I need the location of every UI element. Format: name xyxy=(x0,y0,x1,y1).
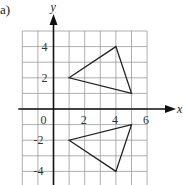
y-tick-label: 2 xyxy=(42,71,48,85)
y-axis-label: y xyxy=(50,0,57,14)
y-tick-label: -4 xyxy=(34,164,44,178)
y-tick-label: -2 xyxy=(34,133,44,147)
x-tick-label: 2 xyxy=(81,113,87,127)
grid-lines xyxy=(22,31,147,185)
x-axis-label: x xyxy=(176,102,183,116)
y-tick-label: 4 xyxy=(42,40,48,54)
part-label: a) xyxy=(0,2,10,18)
coordinate-plane: xy 024642-2-4 xyxy=(0,0,183,185)
x-tick-label: 6 xyxy=(143,113,149,127)
x-tick-label: 4 xyxy=(112,113,118,127)
y-axis-arrow-icon xyxy=(50,14,58,25)
coordinate-figure: a) xy 024642-2-4 xyxy=(0,0,183,185)
x-tick-label: 0 xyxy=(41,113,47,127)
x-axis-arrow-icon xyxy=(165,105,176,113)
